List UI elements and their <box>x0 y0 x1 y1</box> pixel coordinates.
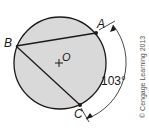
copyright-text: © Cengage Learning 2013 <box>139 36 147 118</box>
point-a <box>94 31 98 35</box>
arc-measure-label: 103° <box>101 74 126 88</box>
label-o: O <box>62 51 71 63</box>
arrowhead-top-icon <box>110 25 116 32</box>
label-b: B <box>4 36 12 50</box>
label-c: C <box>74 107 83 121</box>
arrowhead-bottom-icon <box>86 113 93 119</box>
circle-diagram: A B C O 103° © Cengage Learning 2013 <box>0 0 149 135</box>
label-a: A <box>96 17 105 31</box>
